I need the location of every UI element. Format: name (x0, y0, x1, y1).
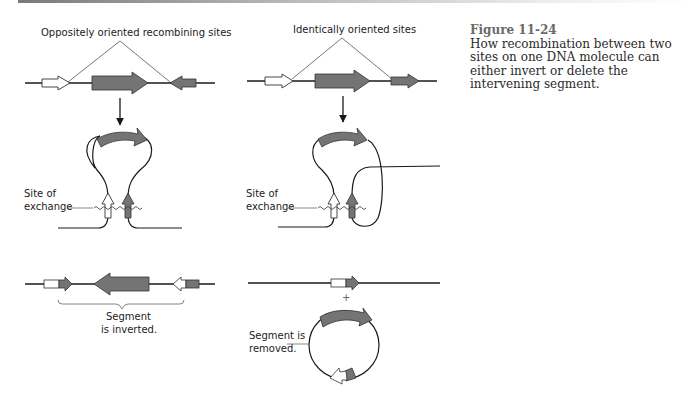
gray-site-up-arrow-icon (346, 193, 358, 218)
left-exchange-label-line2: exchange (24, 201, 73, 213)
curved-segment-arrow-icon (97, 128, 147, 147)
left-result-label-line1: Segment (106, 311, 151, 323)
inverted-segment-brace (58, 300, 184, 309)
circle-site-arrow-icon (330, 368, 347, 384)
figure-number: Figure 11-24 (470, 24, 690, 38)
hybrid-site-arrow-icon (59, 277, 72, 291)
plus-sign: + (342, 292, 350, 304)
left-exchange-label-line1: Site of (24, 188, 56, 200)
circle-segment-arrow-icon (320, 308, 372, 327)
figure-caption-text: How recombination between two sites on o… (470, 37, 672, 92)
open-site-arrow-icon (265, 74, 293, 88)
dna-loop (58, 136, 182, 228)
open-site-up-arrow-icon (102, 193, 114, 218)
right-result-label-line1: Segment is (249, 330, 305, 342)
right-exchange-label-line1: Site of (246, 188, 278, 200)
left-result-label-line2: is inverted. (101, 324, 157, 336)
hybrid-site-arrow-icon (346, 276, 359, 290)
dna-loop-left (278, 139, 334, 227)
gray-site-up-arrow-icon (122, 193, 134, 218)
figure-caption: Figure 11-24 How recombination between t… (470, 24, 690, 92)
dna-loop-right (352, 140, 440, 226)
reverse-site-arrow-icon (170, 76, 196, 90)
segment-arrow-icon (92, 72, 148, 94)
segment-arrow-icon (315, 70, 370, 92)
right-result-label-line2: removed. (249, 343, 297, 355)
curved-segment-arrow-icon (318, 128, 367, 147)
exchange-wave (318, 207, 366, 210)
open-site-up-arrow-icon (328, 193, 340, 218)
exchange-wave (94, 207, 142, 210)
open-site-arrow-icon (42, 76, 70, 90)
right-panel-title: Identically oriented sites (293, 24, 416, 36)
left-panel (25, 41, 215, 309)
inverted-segment-arrow-icon (94, 273, 149, 295)
right-exchange-label-line2: exchange (246, 201, 295, 213)
same-site-arrow-icon (391, 74, 419, 88)
hybrid-site-open-arrow-icon (173, 277, 186, 291)
left-panel-title: Oppositely oriented recombining sites (41, 27, 232, 39)
